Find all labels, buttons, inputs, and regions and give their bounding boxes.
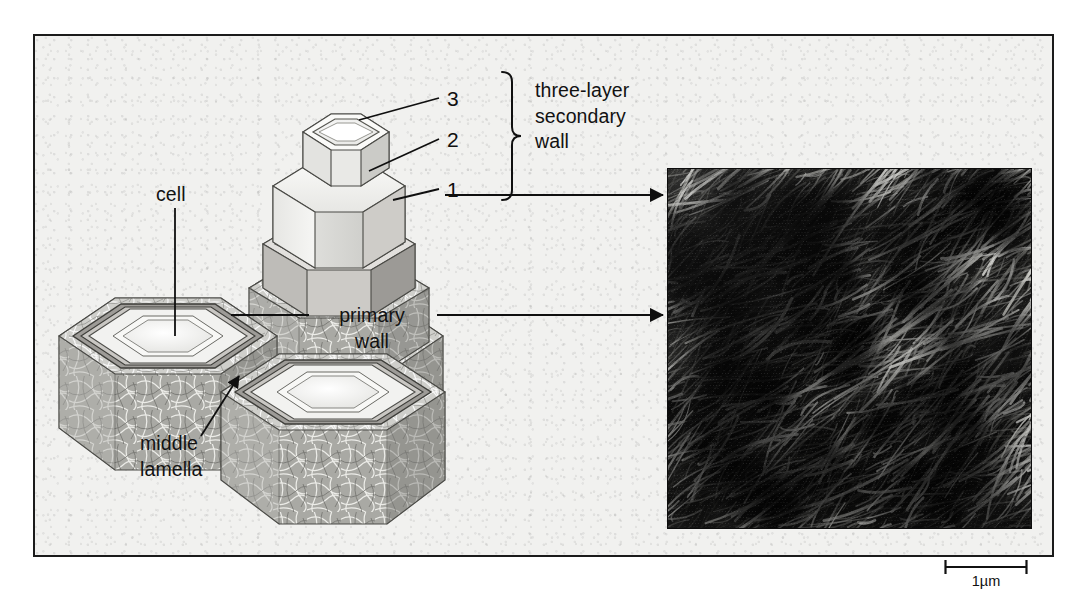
micrograph-image bbox=[668, 169, 1031, 528]
label-primary-wall: primary wall bbox=[314, 303, 430, 354]
label-layer-1: 1 bbox=[447, 179, 459, 200]
figure-frame: cell middle lamella primary wall three-l… bbox=[33, 34, 1054, 557]
label-secondary-wall: three-layer secondary wall bbox=[535, 78, 629, 155]
secondary-wall-bracket bbox=[502, 72, 521, 200]
label-layer-2: 2 bbox=[447, 129, 459, 150]
electron-micrograph-inset bbox=[667, 168, 1032, 529]
right-front-cell bbox=[221, 354, 445, 524]
figure-page: cell middle lamella primary wall three-l… bbox=[0, 0, 1081, 596]
label-layer-3: 3 bbox=[447, 88, 459, 109]
leader-layer-3 bbox=[359, 98, 439, 120]
label-cell: cell bbox=[156, 182, 186, 208]
label-middle-lamella: middle lamella bbox=[140, 431, 202, 482]
scale-bar-label: 1µm bbox=[944, 573, 1028, 589]
